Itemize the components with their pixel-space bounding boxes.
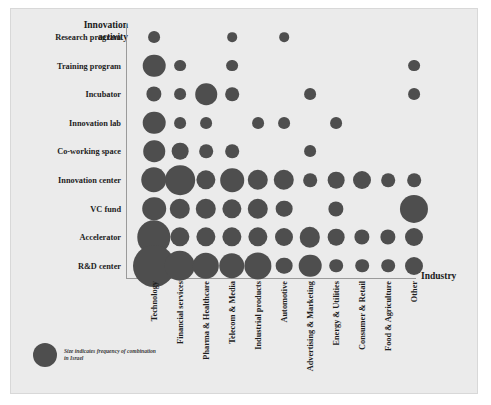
- y-tick-label: VC fund: [16, 204, 121, 213]
- x-tick-label: Telecom & Media: [228, 281, 237, 344]
- bubble-point[interactable]: [170, 228, 189, 247]
- bubble-point[interactable]: [193, 253, 219, 279]
- x-tick-label: Automotive: [280, 281, 289, 322]
- bubble-point[interactable]: [328, 172, 345, 189]
- bubble-point[interactable]: [165, 251, 195, 281]
- y-tick-label: Accelerator: [16, 233, 121, 242]
- bubble-point[interactable]: [304, 145, 316, 157]
- x-tick-label: Other: [410, 281, 419, 302]
- bubble-point[interactable]: [174, 60, 186, 72]
- x-tick-label: Pharma & Healthcare: [202, 281, 211, 360]
- bubble-point[interactable]: [304, 88, 316, 100]
- x-tick-label: Financial services: [176, 281, 185, 344]
- y-tick-label: Innovation lab: [16, 118, 121, 127]
- bubble-point[interactable]: [355, 259, 369, 273]
- bubble-point[interactable]: [174, 88, 186, 100]
- bubble-point[interactable]: [276, 200, 293, 217]
- x-axis-tick-labels: TechnologyFinancial servicesPharma & Hea…: [126, 281, 426, 389]
- y-tick-label: Incubator: [16, 90, 121, 99]
- y-axis-line: [126, 23, 127, 278]
- bubble-point[interactable]: [328, 229, 345, 246]
- bubble-point[interactable]: [141, 167, 166, 192]
- bubble-point[interactable]: [146, 87, 161, 102]
- bubble-point[interactable]: [353, 171, 371, 189]
- legend-bubble-icon: [33, 343, 57, 367]
- bubble-point[interactable]: [142, 197, 166, 221]
- y-axis-tick-labels: Research programTraining programIncubato…: [11, 23, 121, 278]
- bubble-point[interactable]: [248, 170, 268, 190]
- bubble-point[interactable]: [381, 259, 395, 273]
- bubble-point[interactable]: [143, 141, 165, 163]
- bubble-point[interactable]: [248, 228, 267, 247]
- bubble-point[interactable]: [381, 173, 395, 187]
- bubble-point[interactable]: [200, 117, 212, 129]
- bubble-point[interactable]: [405, 257, 423, 275]
- x-tick-label: Industrial products: [254, 281, 263, 350]
- bubble-point[interactable]: [196, 170, 215, 189]
- bubble-point[interactable]: [408, 60, 420, 72]
- bubble-point[interactable]: [196, 198, 216, 218]
- legend: Size indicates frequency of combination …: [33, 343, 156, 367]
- bubble-point[interactable]: [244, 252, 271, 279]
- bubble-point[interactable]: [248, 198, 268, 218]
- bubble-point[interactable]: [330, 117, 342, 129]
- legend-label: Size indicates frequency of combination …: [64, 348, 156, 362]
- bubble-point[interactable]: [143, 54, 166, 77]
- bubble-point[interactable]: [225, 145, 239, 159]
- y-tick-label: Co-working space: [16, 147, 121, 156]
- x-tick-label: Energy & Utilities: [332, 281, 341, 346]
- y-tick-label: Innovation center: [16, 176, 121, 185]
- bubble-point[interactable]: [300, 227, 320, 247]
- bubble-point[interactable]: [225, 87, 239, 101]
- bubble-point[interactable]: [252, 117, 264, 129]
- bubble-point[interactable]: [227, 32, 237, 42]
- x-tick-label: Advertising & Marketing: [306, 281, 315, 371]
- chart-frame: Innovation activity Industry Research pr…: [10, 8, 478, 394]
- plot-area: [126, 23, 416, 278]
- bubble-point[interactable]: [148, 31, 160, 43]
- x-axis-title: Industry: [421, 271, 456, 281]
- bubble-point[interactable]: [275, 228, 293, 246]
- bubble-point[interactable]: [299, 255, 322, 278]
- x-tick-label: Technology: [150, 281, 159, 321]
- y-tick-label: Research program: [16, 33, 121, 42]
- bubble-point[interactable]: [274, 170, 294, 190]
- bubble-point[interactable]: [143, 112, 166, 135]
- bubble-point[interactable]: [303, 173, 317, 187]
- y-tick-label: Training program: [16, 61, 121, 70]
- x-tick-label: Food & Agriculture: [384, 281, 393, 351]
- bubble-point[interactable]: [220, 168, 244, 192]
- bubble-point[interactable]: [172, 143, 189, 160]
- bubble-point[interactable]: [407, 173, 421, 187]
- bubble-point[interactable]: [354, 230, 369, 245]
- bubble-point[interactable]: [278, 117, 290, 129]
- bubble-point[interactable]: [195, 83, 217, 105]
- bubble-point[interactable]: [380, 230, 395, 245]
- bubble-point[interactable]: [276, 257, 293, 274]
- x-tick-label: Consumer & Retail: [358, 281, 367, 350]
- bubble-point[interactable]: [408, 88, 420, 100]
- bubble-point[interactable]: [328, 201, 343, 216]
- bubble-point[interactable]: [226, 60, 238, 72]
- bubble-point[interactable]: [222, 199, 241, 218]
- bubble-point[interactable]: [279, 32, 289, 42]
- y-tick-label: R&D center: [16, 261, 121, 270]
- bubble-point[interactable]: [222, 228, 241, 247]
- bubble-point[interactable]: [174, 117, 186, 129]
- bubble-point[interactable]: [196, 228, 215, 247]
- bubble-point[interactable]: [165, 165, 195, 195]
- bubble-point[interactable]: [400, 195, 428, 223]
- bubble-point[interactable]: [199, 145, 213, 159]
- bubble-point[interactable]: [405, 228, 423, 246]
- bubble-point[interactable]: [170, 198, 190, 218]
- bubble-point[interactable]: [329, 259, 343, 273]
- bubble-point[interactable]: [219, 253, 244, 278]
